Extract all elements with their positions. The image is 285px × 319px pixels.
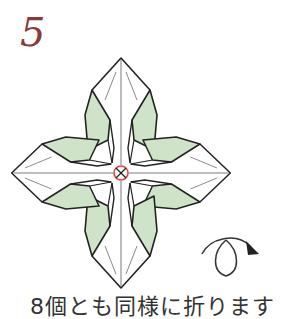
arm-left (12, 137, 121, 209)
turn-over-arrow-icon (202, 238, 259, 276)
arm-right (121, 137, 230, 209)
circle-x-center-icon (114, 166, 128, 180)
arm-top (85, 58, 157, 173)
instruction-caption: 8個とも同様に折ります (30, 296, 275, 318)
arm-bottom (85, 173, 157, 288)
